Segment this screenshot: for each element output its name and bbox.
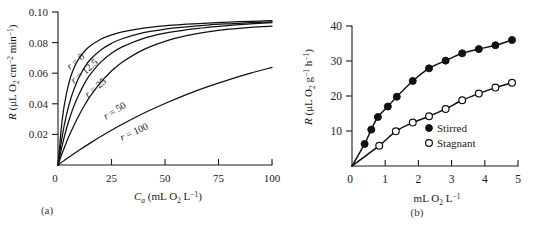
series-line-stagnant <box>352 83 512 166</box>
data-point-stirred-4 <box>393 93 400 100</box>
data-point-stirred-0 <box>361 140 368 147</box>
y-ticklabel-a-4: 0.08 <box>29 37 49 49</box>
x-ticklabel-a-1: 25 <box>106 172 118 184</box>
curve-labels-a: r = 0 r = 12.5 r = 25 r = 50 r = 100 <box>64 51 149 143</box>
panel-a-plot: 0.10 0.08 0.06 0.04 0.02 0 25 50 75 100 … <box>0 0 282 227</box>
x-ticklabel-b-5: 5 <box>515 173 521 185</box>
y-ticklabel-a-5: 0.10 <box>29 6 49 18</box>
legend-marker-stagnant <box>426 140 433 147</box>
data-point-stirred-8 <box>459 50 466 57</box>
y-axis-title-a: R (μL O2 cm−2 min−1) <box>6 24 21 121</box>
curve-r-100 <box>58 67 272 165</box>
x-ticklabel-a-0: 0 <box>52 172 58 184</box>
data-point-stirred-11 <box>509 37 516 44</box>
data-point-stagnant-2 <box>409 119 416 126</box>
panel-b-plot: 40 30 20 10 0 1 2 3 4 5 Stirred <box>282 0 552 227</box>
x-ticks-a <box>112 159 273 165</box>
data-point-stagnant-1 <box>392 128 399 135</box>
y-ticklabel-a-3: 0.06 <box>29 67 49 79</box>
y-ticks-a <box>52 12 58 134</box>
data-point-stagnant-0 <box>376 142 383 149</box>
x-ticklabel-a-3: 75 <box>213 172 225 184</box>
legend-label-stagnant: Stagnant <box>437 137 476 149</box>
data-point-stagnant-8 <box>509 79 516 86</box>
y-ticks-b <box>346 26 352 131</box>
y-ticklabel-b-4: 40 <box>331 20 343 32</box>
curve-label-r-50: r = 50 <box>101 99 128 121</box>
x-ticklabel-b-0: 0 <box>347 173 353 185</box>
panel-label-a: (a) <box>41 204 54 217</box>
data-point-stirred-6 <box>426 65 433 72</box>
data-point-stagnant-6 <box>475 90 482 97</box>
series-b <box>352 37 516 167</box>
data-point-stirred-3 <box>384 103 391 110</box>
data-point-stirred-9 <box>475 46 482 53</box>
data-point-stagnant-3 <box>426 113 433 120</box>
data-point-stirred-5 <box>409 77 416 84</box>
x-ticklabel-b-2: 2 <box>416 173 422 185</box>
data-point-stirred-1 <box>368 126 375 133</box>
y-ticklabel-b-1: 10 <box>331 125 343 137</box>
x-axis-title-b: mL O2 L−1 <box>414 192 461 207</box>
figure-container: 0.10 0.08 0.06 0.04 0.02 0 25 50 75 100 … <box>0 0 552 227</box>
panel-b: 40 30 20 10 0 1 2 3 4 5 Stirred <box>282 0 552 227</box>
y-ticklabel-a-1: 0.02 <box>29 128 48 140</box>
y-ticklabel-a-2: 0.04 <box>29 98 49 110</box>
data-point-stagnant-5 <box>459 97 466 104</box>
x-axis-title-a: Ca (mL O2 L−1) <box>134 190 202 205</box>
legend-marker-stirred <box>426 125 433 132</box>
data-point-stirred-7 <box>442 57 449 64</box>
legend-label-stirred: Stirred <box>437 122 467 134</box>
data-point-stagnant-4 <box>442 106 449 113</box>
panel-a: 0.10 0.08 0.06 0.04 0.02 0 25 50 75 100 … <box>0 0 282 227</box>
x-ticklabel-b-1: 1 <box>382 173 388 185</box>
data-point-stagnant-7 <box>492 84 499 91</box>
legend-b: Stirred Stagnant <box>426 122 476 149</box>
x-ticks-b <box>385 160 518 166</box>
data-point-stirred-2 <box>374 114 381 121</box>
y-axis-title-b: R (μL O2 g−1 h−1) <box>302 49 317 126</box>
data-point-stirred-10 <box>492 42 499 49</box>
y-ticklabel-b-2: 20 <box>331 90 343 102</box>
x-ticklabel-b-4: 4 <box>482 173 488 185</box>
x-ticklabel-a-4: 100 <box>264 172 281 184</box>
x-ticklabel-b-3: 3 <box>449 173 455 185</box>
x-ticklabel-a-2: 50 <box>160 172 172 184</box>
y-ticklabel-b-3: 30 <box>331 55 343 67</box>
panel-label-b: (b) <box>411 206 424 219</box>
